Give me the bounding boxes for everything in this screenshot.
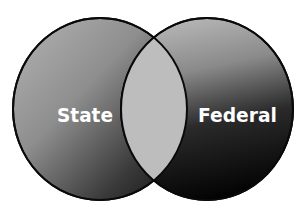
- venn-diagram: State Federal: [0, 0, 306, 213]
- federal-label: Federal: [198, 103, 277, 127]
- state-label: State: [57, 103, 113, 127]
